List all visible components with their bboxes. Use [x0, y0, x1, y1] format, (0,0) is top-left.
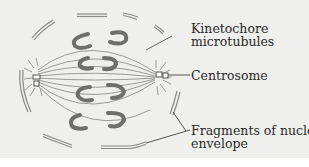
label-line: Centrosome — [191, 69, 268, 82]
label-centrosome: Centrosome — [191, 69, 268, 82]
label-nuclear-envelope-fragments: Fragments of nuclear envelope — [191, 124, 309, 150]
centrosome-left — [33, 75, 40, 86]
leader-lines — [146, 75, 190, 143]
nuclear-envelope-fragments — [20, 13, 180, 149]
centrosome-right — [156, 72, 168, 78]
spindle-microtubules — [24, 50, 172, 120]
label-kinetochore-microtubules: Kinetochore microtubules — [191, 22, 274, 48]
label-line: envelope — [191, 137, 309, 150]
diagram-canvas: Kinetochore microtubules Centrosome Frag… — [0, 0, 309, 167]
label-line: microtubules — [191, 35, 274, 48]
